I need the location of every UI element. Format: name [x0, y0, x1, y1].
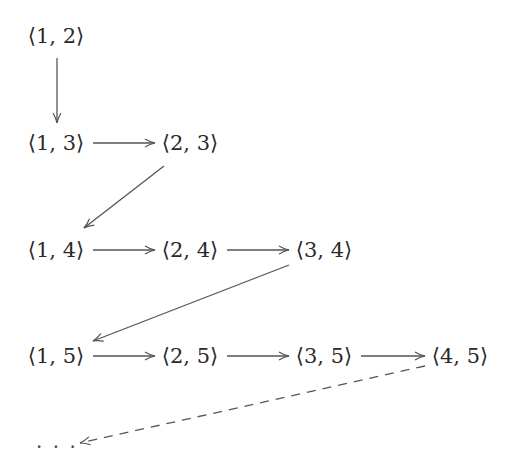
node-1-2: ⟨1, 2⟩ — [28, 26, 84, 47]
node-3-5: ⟨3, 5⟩ — [296, 346, 352, 367]
node-4-5: ⟨4, 5⟩ — [432, 346, 488, 367]
node-2-3: ⟨2, 3⟩ — [162, 133, 218, 154]
edge-n23-to-n14 — [84, 166, 164, 228]
continuation-ellipsis: · · · — [36, 435, 78, 459]
edge-n45-to-continuation — [80, 366, 425, 443]
pair-enumeration-diagram: ⟨1, 2⟩ ⟨1, 3⟩ ⟨2, 3⟩ ⟨1, 4⟩ ⟨2, 4⟩ ⟨3, 4… — [0, 0, 511, 466]
node-1-5: ⟨1, 5⟩ — [28, 346, 84, 367]
node-2-5: ⟨2, 5⟩ — [162, 346, 218, 367]
node-1-3: ⟨1, 3⟩ — [28, 133, 84, 154]
edges-layer — [0, 0, 511, 466]
node-2-4: ⟨2, 4⟩ — [162, 240, 218, 261]
node-3-4: ⟨3, 4⟩ — [296, 240, 352, 261]
node-1-4: ⟨1, 4⟩ — [28, 240, 84, 261]
edge-n34-to-n15 — [93, 265, 289, 341]
